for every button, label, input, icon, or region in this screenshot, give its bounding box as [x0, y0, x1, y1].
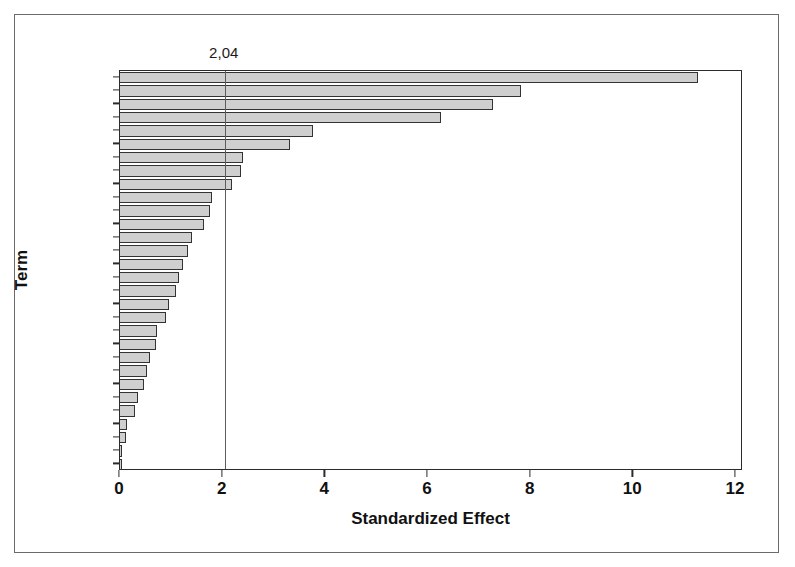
bar-b [120, 112, 441, 123]
bars-layer [120, 71, 741, 469]
bar-begh [120, 379, 144, 390]
bar-ab [120, 432, 126, 443]
bar-gh [120, 419, 127, 430]
bar-abg [120, 392, 138, 403]
bar-row [120, 99, 741, 110]
bar-eg [120, 312, 166, 323]
bar-row [120, 152, 741, 163]
bar-row [120, 432, 741, 443]
bar-bgh [120, 459, 122, 470]
bar-row [120, 192, 741, 203]
bar-e [120, 125, 313, 136]
bar-row [120, 419, 741, 430]
bar-row [120, 299, 741, 310]
x-tick-mark [118, 470, 119, 477]
bar-row [120, 272, 741, 283]
x-tick-label-2: 2 [217, 479, 226, 499]
x-tick-mark [734, 470, 735, 477]
bar-row [120, 205, 741, 216]
x-tick-label-12: 12 [726, 479, 745, 499]
x-axis-title: Standardized Effect [119, 509, 742, 529]
bar-row [120, 339, 741, 350]
bar-row [120, 365, 741, 376]
reference-line [225, 71, 226, 469]
x-tick-label-10: 10 [623, 479, 642, 499]
bar-aegh [120, 365, 147, 376]
bar-row [120, 139, 741, 150]
bar-row [120, 125, 741, 136]
bar-egh [120, 232, 192, 243]
bar-row [120, 352, 741, 363]
bar-abegh [120, 272, 179, 283]
bar-row [120, 245, 741, 256]
x-tick-label-8: 8 [525, 479, 534, 499]
bar-row [120, 165, 741, 176]
bar-beg [120, 245, 188, 256]
bar-row [120, 112, 741, 123]
bar-ah [120, 179, 232, 190]
bar-row [120, 285, 741, 296]
pareto-chart-figure: Term GAHBEBGAGHABEGAHAEBEABGHEGHBEGABHAB… [0, 0, 795, 567]
x-tick-label-4: 4 [320, 479, 329, 499]
bar-row [120, 312, 741, 323]
bar-abh [120, 259, 183, 270]
bar-beh [120, 405, 135, 416]
x-tick-mark [324, 470, 325, 477]
bar-row [120, 379, 741, 390]
reference-line-label: 2,04 [209, 44, 238, 61]
x-tick-mark [529, 470, 530, 477]
bar-bg [120, 139, 290, 150]
bar-row [120, 232, 741, 243]
bar-row [120, 219, 741, 230]
bar-be [120, 205, 210, 216]
bar-abeg [120, 165, 241, 176]
bar-eh [120, 325, 157, 336]
bar-abgh [120, 219, 204, 230]
bar-row [120, 445, 741, 456]
x-tick-label-6: 6 [422, 479, 431, 499]
bar-ae [120, 192, 212, 203]
x-tick-mark [426, 470, 427, 477]
bar-abeh [120, 445, 122, 456]
bar-row [120, 259, 741, 270]
bar-row [120, 392, 741, 403]
bar-a [120, 85, 521, 96]
bar-row [120, 459, 741, 470]
bar-h [120, 99, 493, 110]
bar-aeg [120, 339, 156, 350]
plot-area [119, 70, 742, 470]
bar-row [120, 72, 741, 83]
x-tick-mark [632, 470, 633, 477]
bar-row [120, 325, 741, 336]
bar-bh [120, 352, 150, 363]
y-axis-title: Term [12, 250, 32, 290]
x-tick-mark [221, 470, 222, 477]
bar-row [120, 85, 741, 96]
bar-abe [120, 285, 176, 296]
bar-row [120, 405, 741, 416]
bar-row [120, 179, 741, 190]
bar-aeh [120, 299, 169, 310]
x-tick-label-0: 0 [114, 479, 123, 499]
bar-g [120, 72, 698, 83]
